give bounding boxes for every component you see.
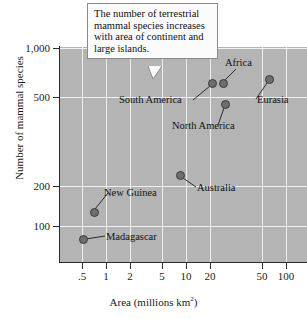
x-tick-100 <box>286 263 287 269</box>
mammal-species-scatter-figure: New Guinea Madagascar Australia South Am… <box>0 0 307 319</box>
data-point-australia[interactable] <box>176 171 185 180</box>
x-tick-0_5 <box>82 263 83 269</box>
point-label-new-guinea: New Guinea <box>104 187 157 198</box>
plot-area: New Guinea Madagascar Australia South Am… <box>60 47 307 262</box>
point-label-africa: Africa <box>225 57 252 68</box>
annotation-callout-text: The number of terrestrial mammal species… <box>94 8 205 54</box>
point-label-australia: Australia <box>197 182 236 193</box>
data-point-north-america[interactable] <box>221 100 230 109</box>
y-tick-label-100: 100 <box>0 221 50 232</box>
y-tick-label-1000: 1,000 <box>0 43 50 54</box>
y-tick-label-500: 500 <box>0 92 50 103</box>
x-axis-title-main: Area (millions km <box>110 296 191 308</box>
data-point-africa[interactable] <box>219 79 228 88</box>
y-tick-label-200: 200 <box>0 181 50 192</box>
data-point-madagascar[interactable] <box>79 235 88 244</box>
y-tick-1000 <box>53 48 59 49</box>
x-axis-title-close: ) <box>194 296 198 308</box>
annotation-callout-tail <box>148 66 162 79</box>
point-label-madagascar: Madagascar <box>106 231 157 242</box>
x-tick-20 <box>210 263 211 269</box>
y-axis-line <box>59 46 60 263</box>
point-label-north-america: North America <box>172 120 235 131</box>
point-label-eurasia: Eurasia <box>257 94 289 105</box>
x-tick-label-2: 2 <box>115 271 145 282</box>
x-tick-2 <box>130 263 131 269</box>
y-tick-100 <box>53 226 59 227</box>
x-tick-label-20: 20 <box>195 271 225 282</box>
x-axis-title: Area (millions km2) <box>0 293 307 308</box>
y-axis-title: Number of mammal species <box>13 43 25 193</box>
y-tick-500 <box>53 97 59 98</box>
y-tick-200 <box>53 186 59 187</box>
x-tick-5 <box>162 263 163 269</box>
x-tick-label-100: 100 <box>271 271 301 282</box>
data-point-south-america[interactable] <box>208 79 217 88</box>
point-label-south-america: South America <box>119 94 182 105</box>
x-tick-1 <box>106 263 107 269</box>
annotation-callout: The number of terrestrial mammal species… <box>87 3 218 59</box>
data-point-new-guinea[interactable] <box>90 208 99 217</box>
x-axis-line <box>59 262 307 263</box>
x-tick-50 <box>262 263 263 269</box>
data-point-eurasia[interactable] <box>265 75 274 84</box>
x-tick-10 <box>186 263 187 269</box>
